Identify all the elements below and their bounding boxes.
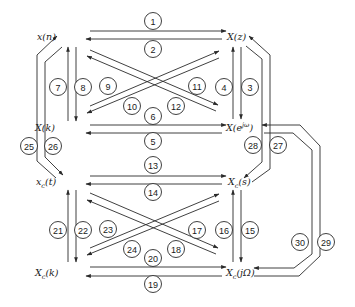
- edge-27-arrow: [249, 36, 270, 182]
- node-x-n: x(n): [37, 31, 56, 42]
- edge-label-4: 4: [216, 79, 233, 96]
- edge-label-number: 27: [273, 141, 283, 151]
- edge-label-21: 21: [50, 222, 67, 239]
- node-Xc-k: Xc(k): [34, 267, 59, 281]
- node-X-z: X(z): [226, 31, 246, 42]
- edge-label-number: 29: [321, 238, 331, 248]
- edge-label-27: 27: [270, 137, 287, 154]
- edge-label-number: 30: [295, 238, 305, 248]
- edge-label-number: 6: [150, 112, 155, 122]
- edge-label-23: 23: [100, 221, 117, 238]
- edge-label-number: 28: [248, 141, 258, 151]
- edge-label-number: 22: [78, 226, 88, 236]
- edge-label-number: 14: [148, 188, 158, 198]
- edge-label-number: 19: [148, 280, 158, 290]
- edge-label-15: 15: [242, 222, 259, 239]
- node-X-ejw: X(ejω): [225, 121, 253, 133]
- edge-label-2: 2: [145, 41, 162, 58]
- edge-label-number: 12: [171, 102, 181, 112]
- edge-label-number: 25: [24, 142, 34, 152]
- edge-26-arrow: [45, 47, 63, 175]
- edge-label-number: 18: [171, 245, 181, 255]
- edge-label-5: 5: [145, 133, 162, 150]
- edge-label-number: 11: [192, 82, 201, 92]
- edge-label-25: 25: [21, 138, 38, 155]
- edge-label-number: 23: [103, 225, 113, 235]
- edge-label-number: 7: [55, 83, 60, 93]
- edge-label-19: 19: [145, 276, 162, 293]
- transform-diagram: x(n) X(z) X(k) X(ejω) xc(t) Xc(s) Xc(k) …: [0, 0, 355, 307]
- edge-label-number: 1: [150, 17, 155, 27]
- edge-label-6: 6: [145, 108, 162, 125]
- node-xc-t: xc(t): [36, 176, 57, 190]
- edge-label-number: 2: [150, 45, 155, 55]
- node-Xc-jW: Xc(jΩ): [225, 267, 255, 281]
- edge-label-22: 22: [75, 222, 92, 239]
- edge-label-30: 30: [292, 234, 309, 251]
- edge-label-26: 26: [45, 138, 62, 155]
- edge-label-number: 4: [221, 83, 226, 93]
- node-Xc-s: Xc(s): [227, 176, 251, 190]
- edge-label-11: 11: [189, 78, 206, 95]
- edge-label-number: 3: [247, 83, 252, 93]
- edge-label-number: 26: [48, 142, 58, 152]
- edge-label-14: 14: [145, 184, 162, 201]
- edge-label-7: 7: [50, 79, 67, 96]
- edge-label-number: 17: [192, 226, 202, 236]
- edge-label-24: 24: [124, 241, 141, 258]
- edge-label-number: 13: [148, 161, 158, 171]
- edge-label-number: 10: [127, 102, 137, 112]
- edge-label-number: 9: [105, 82, 110, 92]
- edge-label-number: 15: [245, 226, 255, 236]
- edge-label-number: 5: [150, 137, 155, 147]
- edge-label-17: 17: [189, 222, 206, 239]
- edge-label-1: 1: [145, 13, 162, 30]
- edge-label-29: 29: [318, 234, 335, 251]
- edge-label-3: 3: [242, 79, 259, 96]
- edge-label-9: 9: [100, 78, 117, 95]
- edge-label-8: 8: [75, 79, 92, 96]
- edge-label-20: 20: [145, 250, 162, 267]
- edge-label-18: 18: [168, 241, 185, 258]
- edge-label-number: 21: [53, 226, 63, 236]
- edge-label-number: 24: [127, 245, 137, 255]
- edge-label-28: 28: [245, 137, 262, 154]
- edge-label-number: 8: [80, 83, 85, 93]
- edge-label-12: 12: [168, 98, 185, 115]
- edge-label-16: 16: [216, 222, 233, 239]
- edge-29-arrow: [254, 125, 320, 276]
- edge-label-10: 10: [124, 98, 141, 115]
- edge-28-arrow: [244, 46, 262, 178]
- edge-label-13: 13: [145, 157, 162, 174]
- edge-25-arrow: [37, 36, 57, 178]
- edge-label-number: 16: [219, 226, 229, 236]
- node-X-k: X(k): [34, 122, 55, 133]
- edge-label-number: 20: [148, 254, 158, 264]
